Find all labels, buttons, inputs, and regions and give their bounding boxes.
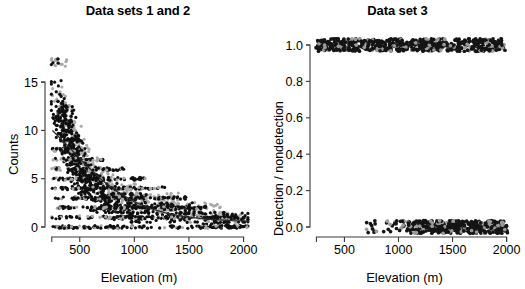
scatter-series-data-set-2	[50, 57, 250, 228]
y-tick-right: 0.6	[286, 111, 303, 125]
x-tick-right: 2000	[493, 243, 521, 257]
x-tick-left: 1500	[175, 243, 203, 257]
panel-data-set-3: Data set 3 Detection / nondetection Elev…	[262, 0, 525, 289]
y-tick-left: 10	[24, 124, 38, 138]
figure-two-panel-scatter: Data sets 1 and 2 Counts Elevation (m) 0…	[0, 0, 525, 289]
nondetection-band	[365, 219, 509, 235]
x-tick-right: 1000	[385, 243, 413, 257]
y-tick-right: 0.4	[286, 148, 303, 162]
x-tick-left: 1000	[120, 243, 148, 257]
y-tick-right: 1.0	[286, 39, 303, 53]
outlier-points	[56, 57, 68, 61]
detection-band	[314, 37, 507, 53]
y-tick-right: 0.2	[286, 184, 303, 198]
y-tick-left: 5	[31, 172, 38, 186]
panel-data-sets-1-and-2: Data sets 1 and 2 Counts Elevation (m) 0…	[0, 0, 262, 289]
x-tick-right: 1500	[439, 243, 467, 257]
plot-area-left: 051015500100015002000	[0, 0, 262, 289]
x-tick-left: 2000	[230, 243, 258, 257]
y-tick-left: 0	[31, 221, 38, 235]
y-tick-right: 0.0	[286, 221, 303, 235]
y-tick-right: 0.8	[286, 75, 303, 89]
x-tick-left: 500	[69, 243, 90, 257]
plot-area-right: 0.00.20.40.60.81.0500100015002000	[262, 0, 525, 289]
x-tick-right: 500	[334, 243, 355, 257]
y-tick-left: 15	[24, 76, 38, 90]
